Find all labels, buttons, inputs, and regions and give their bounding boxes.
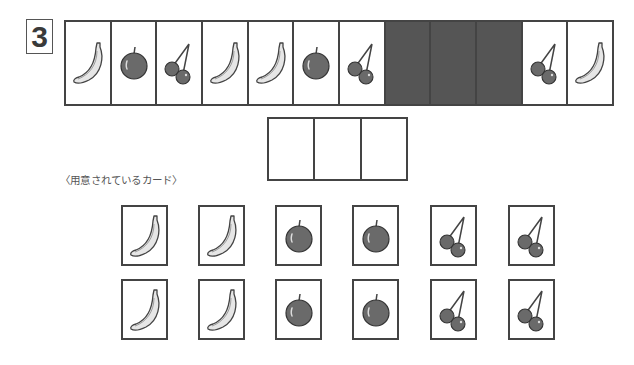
card-banana[interactable]	[121, 205, 168, 266]
card-cherry[interactable]	[508, 205, 555, 266]
answer-slot-3[interactable]	[362, 119, 406, 179]
hidden-card-cell	[477, 22, 523, 104]
banana-icon	[128, 286, 162, 334]
cherry-icon	[436, 287, 472, 333]
banana-icon	[205, 212, 239, 260]
answer-slot-2[interactable]	[315, 119, 361, 179]
apple-icon	[282, 290, 316, 330]
card-apple[interactable]	[352, 279, 399, 340]
banana-icon	[254, 39, 288, 87]
banana-icon	[208, 39, 242, 87]
answer-slots	[267, 117, 408, 181]
cherry-icon	[514, 213, 550, 259]
sequence-cell-apple	[294, 22, 340, 104]
hidden-card-cell	[386, 22, 432, 104]
sequence-cell-cherry	[523, 22, 569, 104]
cherry-icon	[514, 287, 550, 333]
cherry-icon	[344, 40, 380, 86]
apple-icon	[299, 43, 333, 83]
cherry-icon	[161, 40, 197, 86]
banana-icon	[573, 39, 607, 87]
sequence-cell-banana	[66, 22, 112, 104]
sequence-cell-banana	[568, 22, 612, 104]
card-banana[interactable]	[121, 279, 168, 340]
card-cherry[interactable]	[430, 205, 477, 266]
card-apple[interactable]	[275, 205, 322, 266]
sequence-cell-cherry	[157, 22, 203, 104]
sequence-cell-apple	[112, 22, 158, 104]
banana-icon	[205, 286, 239, 334]
question-number: 3	[26, 19, 53, 54]
card-banana[interactable]	[198, 279, 245, 340]
banana-icon	[71, 39, 105, 87]
banana-icon	[128, 212, 162, 260]
available-cards-label: 〈用意されているカード〉	[60, 172, 182, 187]
apple-icon	[359, 216, 393, 256]
apple-icon	[117, 43, 151, 83]
answer-slot-1[interactable]	[269, 119, 315, 179]
sequence-cell-cherry	[340, 22, 386, 104]
fruit-sequence-strip	[64, 20, 614, 106]
hidden-card-cell	[431, 22, 477, 104]
sequence-cell-banana	[203, 22, 249, 104]
card-apple[interactable]	[275, 279, 322, 340]
card-cherry[interactable]	[508, 279, 555, 340]
cherry-icon	[527, 40, 563, 86]
card-banana[interactable]	[198, 205, 245, 266]
card-cherry[interactable]	[430, 279, 477, 340]
sequence-cell-banana	[249, 22, 295, 104]
apple-icon	[359, 290, 393, 330]
apple-icon	[282, 216, 316, 256]
card-apple[interactable]	[352, 205, 399, 266]
cherry-icon	[436, 213, 472, 259]
